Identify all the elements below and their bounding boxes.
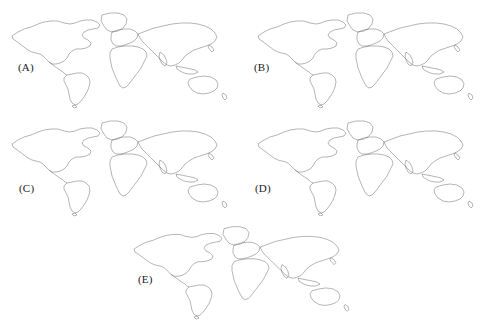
panel-label-c: (C) xyxy=(19,183,34,194)
panel-a-canvas xyxy=(4,2,242,110)
panel-b-canvas xyxy=(250,2,488,110)
panel-label-a: (A) xyxy=(18,62,34,73)
panel-d-canvas xyxy=(250,110,488,218)
panel-a-map xyxy=(4,2,242,110)
panel-label-d: (D) xyxy=(255,183,271,194)
panel-label-e: (E) xyxy=(138,274,153,285)
panel-label-b: (B) xyxy=(254,62,269,73)
panel-e-canvas xyxy=(126,216,364,321)
panel-e-map xyxy=(126,216,364,321)
figure-root: (A) xyxy=(0,0,489,321)
panel-c-canvas xyxy=(4,110,242,218)
panel-c-map xyxy=(4,110,242,218)
panel-b-map xyxy=(250,2,488,110)
panel-d-map xyxy=(250,110,488,218)
